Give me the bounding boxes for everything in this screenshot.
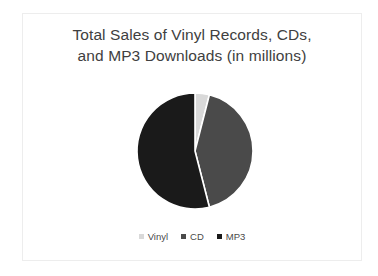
legend-swatch-cd xyxy=(181,234,186,239)
chart-title-line-2: and MP3 Downloads (in millions) xyxy=(30,45,354,66)
chart-title-line-1: Total Sales of Vinyl Records, CDs, xyxy=(30,24,354,45)
pie-slice-group xyxy=(137,93,253,209)
legend-item-cd[interactable]: CD xyxy=(181,231,204,242)
chart-title: Total Sales of Vinyl Records, CDs, and M… xyxy=(30,24,354,66)
legend-swatch-mp3 xyxy=(217,234,222,239)
legend-item-vinyl[interactable]: Vinyl xyxy=(139,231,168,242)
legend-item-mp3[interactable]: MP3 xyxy=(217,231,246,242)
slide-canvas: Total Sales of Vinyl Records, CDs, and M… xyxy=(0,0,378,276)
pie-chart-plot-area xyxy=(22,78,362,226)
legend-label-vinyl: Vinyl xyxy=(148,231,168,242)
legend-swatch-vinyl xyxy=(139,234,144,239)
pie-chart-svg xyxy=(22,78,362,226)
legend-label-cd: CD xyxy=(190,231,204,242)
chart-legend: Vinyl CD MP3 xyxy=(22,231,362,242)
legend-label-mp3: MP3 xyxy=(226,231,246,242)
